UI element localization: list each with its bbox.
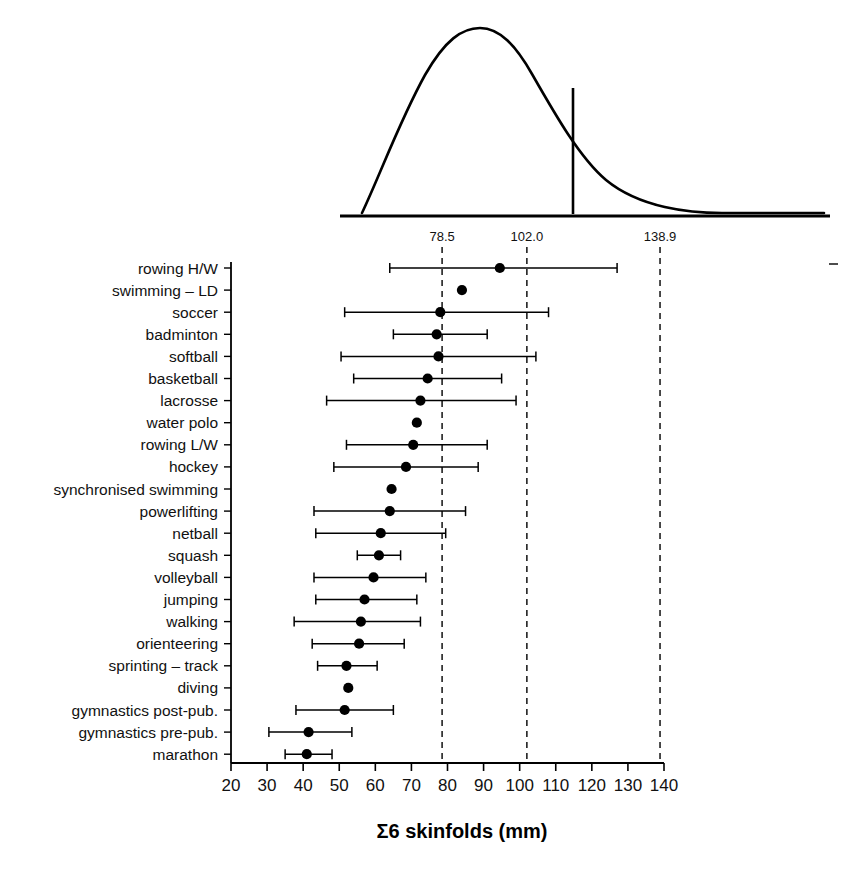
reference-label-78.5: 78.5 bbox=[429, 229, 454, 244]
data-row bbox=[294, 617, 420, 627]
skinfolds-figure: 78.5102.0138.9 rowing H/Wswimming – LDso… bbox=[0, 0, 865, 869]
x-tick-label: 140 bbox=[650, 776, 678, 795]
x-tick-label: 40 bbox=[294, 776, 313, 795]
data-point-marker bbox=[433, 351, 443, 361]
category-label: jumping bbox=[163, 591, 218, 608]
x-tick-label: 30 bbox=[258, 776, 277, 795]
category-label: squash bbox=[168, 547, 218, 564]
x-axis-ticks bbox=[231, 763, 664, 771]
data-point-marker bbox=[385, 506, 395, 516]
data-row bbox=[318, 661, 378, 671]
category-label: diving bbox=[178, 679, 219, 696]
data-point-marker bbox=[457, 285, 467, 295]
data-point-marker bbox=[354, 639, 364, 649]
category-label: hockey bbox=[169, 458, 218, 475]
data-point-marker bbox=[495, 263, 505, 273]
data-row bbox=[316, 594, 417, 604]
data-point-marker bbox=[340, 705, 350, 715]
category-label: powerlifting bbox=[140, 503, 218, 520]
x-tick-label: 100 bbox=[505, 776, 533, 795]
data-row bbox=[312, 639, 404, 649]
data-point-marker bbox=[356, 617, 366, 627]
category-label: rowing H/W bbox=[138, 260, 218, 277]
category-label: marathon bbox=[153, 746, 218, 763]
distribution-curve-group bbox=[340, 28, 830, 216]
x-tick-label: 90 bbox=[474, 776, 493, 795]
data-point-marker bbox=[415, 396, 425, 406]
data-row bbox=[393, 329, 487, 339]
x-tick-label: 130 bbox=[614, 776, 642, 795]
data-point-marker bbox=[435, 307, 445, 317]
data-row bbox=[345, 307, 549, 317]
data-point-marker bbox=[408, 440, 418, 450]
category-label: synchronised swimming bbox=[53, 481, 218, 498]
data-row bbox=[390, 263, 617, 273]
category-label: volleyball bbox=[154, 569, 218, 586]
x-tick-label: 120 bbox=[578, 776, 606, 795]
x-tick-label: 80 bbox=[438, 776, 457, 795]
distribution-curve bbox=[362, 28, 824, 213]
category-labels-group: rowing H/Wswimming – LDsoccerbadmintonso… bbox=[53, 260, 218, 763]
category-label: soccer bbox=[172, 304, 218, 321]
category-label: rowing L/W bbox=[140, 436, 218, 453]
data-point-marker bbox=[374, 550, 384, 560]
category-label: swimming – LD bbox=[112, 282, 218, 299]
category-label: basketball bbox=[148, 370, 218, 387]
data-series-group bbox=[269, 263, 617, 759]
data-row bbox=[354, 373, 502, 383]
x-tick-label: 20 bbox=[222, 776, 241, 795]
y-axis-ticks bbox=[224, 268, 231, 754]
data-row bbox=[327, 396, 516, 406]
data-row bbox=[346, 440, 487, 450]
data-row bbox=[314, 506, 466, 516]
data-row bbox=[341, 351, 536, 361]
data-row bbox=[334, 462, 478, 472]
x-axis-title: Σ6 skinfolds (mm) bbox=[377, 820, 548, 842]
axes-group bbox=[224, 262, 664, 771]
reference-lines-group: 78.5102.0138.9 bbox=[429, 229, 676, 763]
data-point-marker bbox=[343, 683, 353, 693]
category-label: gymnastics post-pub. bbox=[72, 702, 218, 719]
data-row bbox=[457, 285, 467, 295]
category-label: badminton bbox=[146, 326, 218, 343]
category-label: netball bbox=[172, 525, 218, 542]
x-tick-label: 60 bbox=[366, 776, 385, 795]
data-row bbox=[314, 572, 426, 582]
reference-label-102.0: 102.0 bbox=[511, 229, 544, 244]
chart-svg: 78.5102.0138.9 rowing H/Wswimming – LDso… bbox=[0, 0, 865, 869]
data-row bbox=[357, 550, 400, 560]
category-label: softball bbox=[169, 348, 218, 365]
category-label: sprinting – track bbox=[109, 657, 219, 674]
data-point-marker bbox=[341, 661, 351, 671]
data-row bbox=[269, 727, 352, 737]
data-point-marker bbox=[303, 727, 313, 737]
data-point-marker bbox=[412, 418, 422, 428]
reference-label-138.9: 138.9 bbox=[644, 229, 677, 244]
data-point-marker bbox=[401, 462, 411, 472]
data-row bbox=[386, 484, 396, 494]
data-row bbox=[343, 683, 353, 693]
x-tick-label: 50 bbox=[330, 776, 349, 795]
data-row bbox=[412, 418, 422, 428]
x-axis-tick-labels: 2030405060708090100110120130140 bbox=[222, 776, 679, 795]
data-point-marker bbox=[368, 572, 378, 582]
category-label: orienteering bbox=[136, 635, 218, 652]
data-point-marker bbox=[432, 329, 442, 339]
data-point-marker bbox=[376, 528, 386, 538]
data-point-marker bbox=[302, 749, 312, 759]
data-row bbox=[316, 528, 446, 538]
data-row bbox=[285, 749, 332, 759]
category-label: gymnastics pre-pub. bbox=[78, 724, 218, 741]
category-label: water polo bbox=[145, 414, 218, 431]
data-row bbox=[296, 705, 393, 715]
data-point-marker bbox=[386, 484, 396, 494]
data-point-marker bbox=[359, 594, 369, 604]
category-label: lacrosse bbox=[160, 392, 218, 409]
x-tick-label: 70 bbox=[402, 776, 421, 795]
x-tick-label: 110 bbox=[542, 776, 569, 795]
category-label: walking bbox=[165, 613, 218, 630]
data-point-marker bbox=[423, 373, 433, 383]
